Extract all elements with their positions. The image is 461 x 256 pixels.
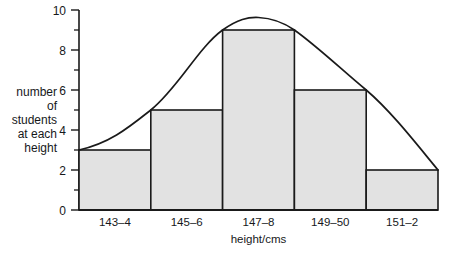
- histogram-chart: 10 8 6 4 2 0 number of students at each …: [0, 0, 461, 256]
- bar-149-50: [294, 90, 366, 210]
- x-label-145-6: 145–6: [171, 216, 203, 228]
- y-axis-title-line-1: number: [16, 85, 57, 99]
- bar-145-6: [151, 110, 223, 210]
- chart-canvas: 10 8 6 4 2 0 number of students at each …: [0, 0, 461, 256]
- y-tick-label-8: 8: [59, 44, 66, 58]
- y-tick-label-0: 0: [59, 204, 66, 218]
- y-axis-title-line-4: at each: [18, 127, 57, 141]
- y-axis-title-line-5: height: [24, 141, 57, 155]
- y-tick-label-2: 2: [59, 164, 66, 178]
- bar-143-4: [79, 150, 151, 210]
- y-tick-label-6: 6: [59, 84, 66, 98]
- y-axis-title-line-2: of: [47, 99, 58, 113]
- x-label-149-50: 149–50: [311, 216, 349, 228]
- x-label-143-4: 143–4: [99, 216, 132, 228]
- y-axis-title: number of students at each height: [12, 85, 58, 155]
- bar-151-2: [366, 170, 438, 210]
- x-label-147-8: 147–8: [243, 216, 275, 228]
- y-axis-title-line-3: students: [12, 113, 57, 127]
- y-tick-label-4: 4: [59, 124, 66, 138]
- x-category-labels: 143–4 145–6 147–8 149–50 151–2: [99, 216, 418, 228]
- y-tick-label-10: 10: [53, 4, 67, 18]
- x-label-151-2: 151–2: [386, 216, 418, 228]
- bars-group: [79, 30, 438, 210]
- bar-147-8: [223, 30, 295, 210]
- x-axis-title: height/cms: [231, 233, 287, 245]
